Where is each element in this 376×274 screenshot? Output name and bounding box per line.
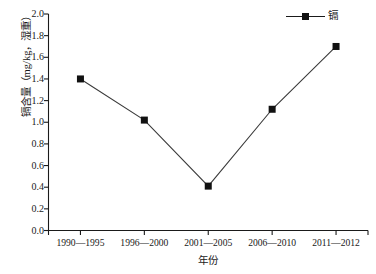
series-line-镉 (80, 46, 336, 186)
series-markers (77, 43, 340, 190)
x-axis-ticks (49, 231, 369, 236)
data-point-marker (269, 106, 276, 113)
series-line-path (80, 46, 336, 186)
legend-line-segment-right (309, 16, 325, 17)
legend-line-segment-left (286, 16, 302, 17)
data-point-marker (77, 75, 84, 82)
data-point-marker (333, 43, 340, 50)
chart-legend: 镉 (286, 8, 338, 24)
axis-lines (48, 14, 368, 231)
legend-label: 镉 (325, 9, 338, 23)
chart-figure: 镉含量（mg/kg，湿重） 0.00.20.40.60.81.01.21.41.… (0, 0, 376, 274)
x-axis-tick-label: 2011—2012 (291, 236, 376, 249)
data-point-marker (205, 183, 212, 190)
x-axis-tick-labels: 1990—19951996—20002001—20052006—20102011… (48, 236, 368, 252)
data-point-marker (141, 117, 148, 124)
plot-area (0, 0, 376, 274)
x-axis-title: 年份 (48, 254, 368, 267)
legend-marker-square-icon (302, 13, 309, 20)
y-axis-ticks (44, 14, 49, 231)
